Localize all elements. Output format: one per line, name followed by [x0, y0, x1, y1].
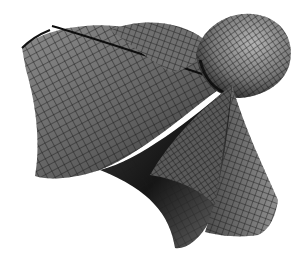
mesh-surface-drawing: [0, 0, 307, 265]
surface-render: [0, 0, 307, 265]
bulb-lobe: [196, 14, 291, 98]
